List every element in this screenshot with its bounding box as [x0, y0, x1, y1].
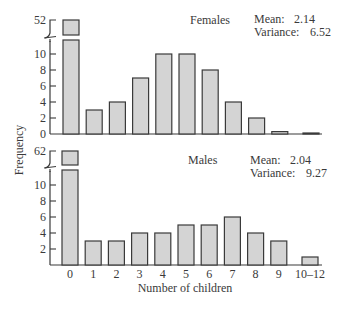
bar: [272, 132, 288, 134]
x-tick-label: 5: [183, 267, 189, 281]
bar: [85, 241, 101, 265]
x-tick-label: 1: [90, 267, 96, 281]
bar: [224, 217, 240, 265]
x-tick-label: 3: [137, 267, 143, 281]
panel-females: 520246810FemalesMean:2.14Variance:6.52: [34, 12, 331, 141]
axis-break-icon: [45, 151, 56, 168]
bar: [156, 54, 172, 134]
y-break-label: 52: [34, 13, 46, 27]
bar: [201, 225, 217, 265]
bar: [133, 78, 149, 134]
x-tick-label: 10–12: [295, 267, 325, 281]
mean-label: Mean:: [254, 12, 285, 26]
x-tick-label: 4: [160, 267, 166, 281]
bar: [62, 170, 78, 265]
x-tick-label: 7: [229, 267, 235, 281]
bar-top-segment: [63, 20, 79, 35]
x-tick-label: 9: [276, 267, 282, 281]
bar: [155, 233, 171, 265]
bar: [225, 102, 241, 134]
children-frequency-chart: 520246810FemalesMean:2.14Variance:6.5262…: [0, 0, 344, 309]
bar: [108, 241, 124, 265]
x-tick-label: 0: [67, 267, 73, 281]
bar-top-segment: [62, 151, 78, 165]
x-tick-label: 2: [113, 267, 119, 281]
y-tick-label: 2: [40, 111, 46, 125]
axis-break-icon: [45, 20, 56, 38]
variance-value: 6.52: [310, 25, 331, 39]
y-tick-label: 6: [40, 210, 46, 224]
bar: [248, 233, 264, 265]
y-tick-label: 0: [40, 127, 46, 141]
bar: [178, 225, 194, 265]
x-tick-label: 6: [206, 267, 212, 281]
y-tick-label: 4: [40, 95, 46, 109]
bar: [202, 70, 218, 134]
x-tick-label: 8: [253, 267, 259, 281]
y-tick-label: 8: [40, 63, 46, 77]
y-tick-label: 10: [34, 178, 46, 192]
bar: [109, 102, 125, 134]
bar: [303, 133, 319, 134]
panel-title: Males: [188, 153, 218, 167]
y-tick-label: 2: [40, 242, 46, 256]
bar: [271, 241, 287, 265]
bar: [86, 110, 102, 134]
x-axis-label: Number of children: [138, 281, 233, 295]
y-tick-label: 10: [34, 47, 46, 61]
mean-value: 2.14: [294, 12, 315, 26]
y-tick-label: 6: [40, 79, 46, 93]
x-tick-labels: 012345678910–12: [67, 267, 325, 281]
y-break-label: 62: [34, 144, 46, 158]
variance-label: Variance:: [254, 25, 299, 39]
mean-value: 2.04: [290, 153, 311, 167]
bar: [249, 118, 265, 134]
panel-title: Females: [190, 13, 230, 27]
bar: [63, 40, 79, 134]
bar: [302, 257, 318, 265]
y-tick-label: 4: [40, 226, 46, 240]
mean-label: Mean:: [250, 153, 281, 167]
panel-males: 62246810MalesMean:2.04Variance:9.27: [34, 144, 327, 265]
y-axis-label: Frequency: [12, 125, 26, 176]
bar: [132, 233, 148, 265]
bar: [179, 54, 195, 134]
variance-label: Variance:: [250, 166, 295, 180]
y-tick-label: 8: [40, 194, 46, 208]
variance-value: 9.27: [306, 166, 327, 180]
